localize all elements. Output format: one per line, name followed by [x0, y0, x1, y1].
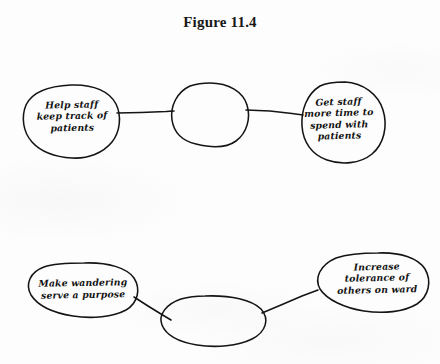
figure-page: Figure 11.4 Help staff keep track of pat…	[0, 0, 440, 364]
node-label-help-staff: Help staff keep track of patients	[28, 98, 117, 134]
concept-map-diagram	[0, 0, 440, 364]
connector-topcenter-to-get	[246, 110, 303, 115]
node-label-get-staff-time: Get staff more time to spend with patien…	[298, 95, 379, 143]
node-label-make-wandering: Make wandering serve a purpose	[24, 276, 142, 302]
connector-help-to-topcenter	[117, 111, 174, 113]
bubble-bottom-center-empty[interactable]	[161, 296, 266, 346]
node-label-increase-tolerance: Increase tolerance of others on ward	[325, 260, 430, 297]
connector-bottomcenter-to-tolerance	[262, 290, 318, 313]
bubble-top-center-empty[interactable]	[172, 83, 249, 147]
